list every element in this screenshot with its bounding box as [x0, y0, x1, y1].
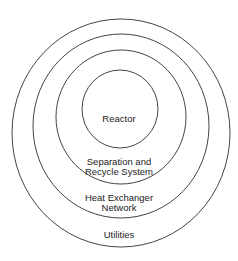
reactor-label: Reactor [0, 114, 238, 124]
reactor-ring [82, 70, 158, 148]
hen-label-line2: Network [0, 203, 238, 213]
onion-diagram [0, 0, 238, 261]
utilities-label: Utilities [0, 230, 238, 240]
heat-exchanger-ring [33, 34, 209, 218]
separation-label-line2: Recycle System [0, 167, 238, 177]
